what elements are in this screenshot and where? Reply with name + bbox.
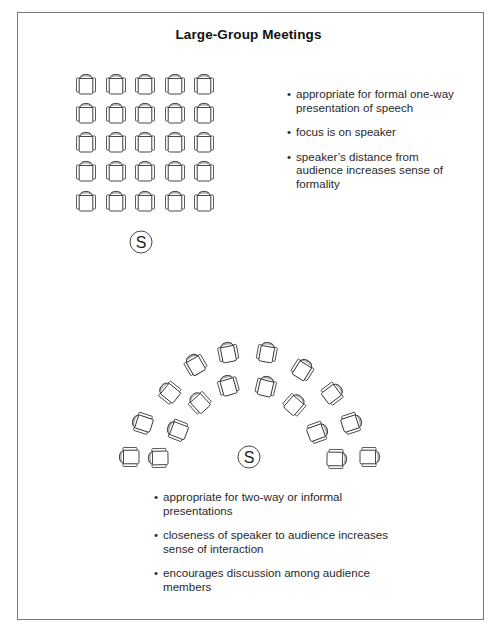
formal-notes-list: •appropriate for formal one-way presenta… — [287, 87, 467, 202]
note-text: focus is on speaker — [296, 125, 396, 138]
chair-icon — [136, 103, 155, 123]
list-item: •closeness of speaker to audience increa… — [154, 528, 404, 555]
note-text: appropriate for formal one-way presentat… — [296, 87, 454, 114]
chair-icon — [165, 418, 190, 443]
chair-icon — [281, 391, 308, 418]
list-item: •appropriate for two-way or informal pre… — [154, 490, 404, 517]
speaker-marker-formal: S — [130, 231, 152, 253]
chair-icon — [256, 341, 278, 364]
chair-icon — [136, 191, 155, 211]
informal-notes-list: •appropriate for two-way or informal pre… — [154, 490, 404, 605]
chair-icon — [136, 74, 155, 94]
chair-icon — [136, 132, 155, 152]
chair-icon — [156, 379, 183, 406]
bullet-icon: • — [287, 150, 291, 164]
chair-icon — [107, 161, 126, 181]
chair-icon — [319, 380, 346, 407]
chair-icon — [148, 448, 168, 467]
chair-icon — [185, 388, 212, 415]
chair-icon — [166, 191, 185, 211]
chair-icon — [327, 449, 347, 468]
chair-icon — [77, 103, 96, 123]
chair-icon — [166, 103, 185, 123]
chair-icon — [290, 356, 317, 383]
chair-icon — [305, 420, 330, 445]
chair-icon — [77, 191, 96, 211]
chair-icon — [136, 161, 155, 181]
list-item: •focus is on speaker — [287, 125, 467, 139]
chair-icon — [107, 74, 126, 94]
chair-icon — [166, 132, 185, 152]
chair-icon — [195, 103, 214, 123]
formal-grid-seating — [77, 74, 214, 211]
chair-icon — [195, 161, 214, 181]
chair-icon — [130, 411, 155, 435]
chair-icon — [340, 411, 365, 435]
chair-icon — [107, 132, 126, 152]
bullet-icon: • — [154, 528, 158, 542]
chair-icon — [166, 74, 185, 94]
note-text: speaker’s distance from audience increas… — [296, 150, 443, 190]
chair-icon — [77, 132, 96, 152]
chair-icon — [360, 448, 380, 467]
chair-icon — [77, 74, 96, 94]
chair-icon — [182, 351, 208, 377]
list-item: •encourages discussion among audience me… — [154, 566, 404, 593]
speaker-label: S — [244, 449, 255, 466]
chair-icon — [107, 191, 126, 211]
bullet-icon: • — [154, 490, 158, 504]
bullet-icon: • — [287, 87, 291, 101]
note-text: appropriate for two-way or informal pres… — [163, 490, 342, 517]
chair-icon — [254, 374, 277, 397]
note-text: closeness of speaker to audience increas… — [163, 528, 388, 555]
chair-icon — [107, 103, 126, 123]
bullet-icon: • — [154, 566, 158, 580]
chair-icon — [166, 161, 185, 181]
chair-icon — [195, 74, 214, 94]
list-item: •speaker’s distance from audience increa… — [287, 150, 467, 191]
list-item: •appropriate for formal one-way presenta… — [287, 87, 467, 114]
speaker-marker-informal: S — [238, 446, 260, 468]
chair-icon — [119, 448, 139, 467]
chair-icon — [195, 191, 214, 211]
note-text: encourages discussion among audience mem… — [163, 566, 370, 593]
chair-icon — [216, 373, 240, 397]
chair-icon — [217, 341, 239, 364]
chair-icon — [77, 161, 96, 181]
chair-icon — [195, 132, 214, 152]
speaker-label: S — [136, 234, 147, 251]
bullet-icon: • — [287, 125, 291, 139]
